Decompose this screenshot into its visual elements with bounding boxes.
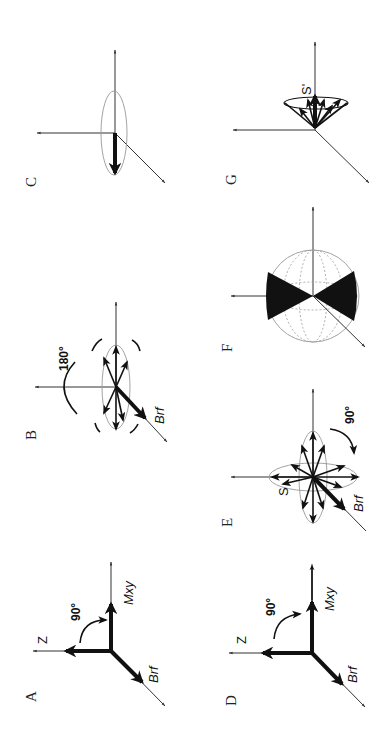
panel-c: C	[23, 50, 165, 187]
z-label: Z	[35, 636, 50, 644]
angle-label: 180°	[57, 346, 71, 371]
panel-label-b: B	[23, 430, 39, 440]
panel-a: A Z 90° Mxy Brf	[23, 562, 165, 706]
angle-label: 90°	[264, 598, 278, 616]
panel-label-c: C	[23, 177, 39, 187]
panel-label-f: F	[219, 344, 235, 352]
brf-label: Brf	[152, 406, 167, 424]
panel-f: F	[219, 207, 365, 352]
x-axis	[315, 130, 369, 183]
rotation-arc-icon	[80, 620, 106, 643]
brf-label: Brf	[345, 665, 360, 683]
panel-label-d: D	[223, 695, 239, 706]
z-label: Z	[234, 636, 249, 644]
brf-label: Brf	[351, 494, 366, 512]
rotation-arc-icon	[274, 614, 300, 639]
brf-vector-arrow	[312, 653, 342, 684]
rotation-arc-icon	[330, 429, 354, 453]
s-prime-label: S'	[299, 84, 314, 95]
angle-label: 90°	[343, 406, 357, 424]
brf-vector-arrow	[116, 387, 145, 418]
s-label: S	[276, 487, 291, 496]
mxy-label: Mxy	[121, 580, 136, 605]
cone-lobe-left	[266, 272, 313, 320]
brf-vector-arrow	[111, 651, 142, 682]
nmr-pulse-diagram: A Z 90° Mxy Brf D Z 90° Mxy Brf	[0, 0, 390, 747]
panel-label-g: G	[223, 174, 239, 185]
panel-label-a: A	[23, 691, 39, 702]
panel-b: B 180° Brf	[23, 302, 167, 442]
x-axis	[115, 133, 165, 183]
panel-label-e: E	[219, 518, 235, 527]
brf-label: Brf	[146, 665, 161, 683]
panel-e: E S 90° Brf	[219, 389, 366, 531]
panel-g: G S'	[223, 42, 369, 185]
cone-lobe-right	[313, 271, 357, 321]
mxy-label: Mxy	[322, 586, 337, 611]
angle-label: 90°	[69, 603, 83, 621]
panel-d: D Z 90° Mxy Brf	[223, 564, 365, 707]
